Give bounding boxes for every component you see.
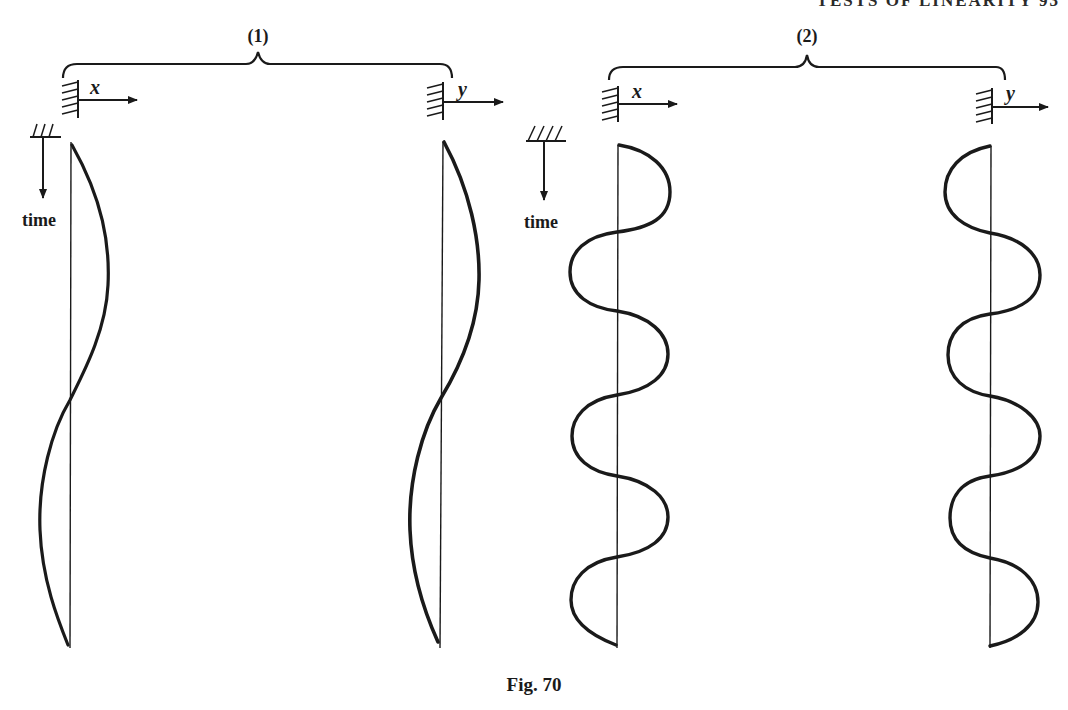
output-y-anchor-icon xyxy=(976,88,992,124)
y-trace-curve xyxy=(410,142,479,642)
time-anchor-icon xyxy=(526,126,566,141)
input-x-anchor-icon xyxy=(602,86,618,122)
panel-1-label: (1) xyxy=(248,26,269,47)
time-anchor-icon xyxy=(30,124,61,137)
input-x-anchor-icon xyxy=(62,80,78,118)
panel-2-label: (2) xyxy=(797,26,818,47)
figure-canvas: (1) x time xyxy=(0,0,1068,710)
panel-1: (1) x time xyxy=(22,26,503,648)
x-axis-label: x xyxy=(631,80,642,102)
time-label: time xyxy=(524,212,558,232)
brace-panel-2 xyxy=(609,55,1005,80)
x-axis-label: x xyxy=(89,76,100,98)
y-axis-label: y xyxy=(456,78,467,101)
x-trace-curve xyxy=(570,145,670,645)
time-label: time xyxy=(22,210,56,230)
y-trace-curve xyxy=(945,146,1040,646)
figure-caption: Fig. 70 xyxy=(0,674,1068,696)
brace-panel-1 xyxy=(63,52,452,78)
output-y-anchor-icon xyxy=(427,82,443,120)
panel-2: (2) x time xyxy=(524,26,1048,648)
y-axis-label: y xyxy=(1004,82,1015,105)
